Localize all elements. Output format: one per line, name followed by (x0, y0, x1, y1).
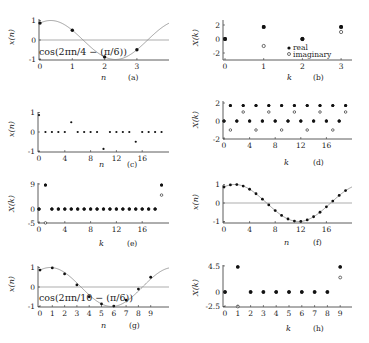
sample-point (77, 131, 79, 133)
sample-point (154, 131, 156, 133)
real-point (262, 290, 265, 293)
x-tick-label: 12 (296, 225, 306, 234)
sample-point (141, 131, 143, 133)
panel-caption: (c) (127, 160, 137, 169)
sample-point (280, 214, 283, 217)
real-point (287, 290, 290, 293)
sample-point (38, 114, 40, 116)
x-tick-label: 4 (274, 309, 279, 318)
real-point (121, 208, 124, 211)
y-tick-label: -1 (213, 217, 220, 226)
real-point (249, 290, 252, 293)
y-tick-label: 1 (31, 16, 36, 25)
y-tick-label: 0 (30, 205, 35, 214)
real-point (301, 37, 305, 41)
x-tick-label: 9 (338, 309, 343, 318)
y-axis-label: X(k) (191, 29, 200, 47)
x-axis-label: n (101, 321, 106, 330)
x-tick-label: 8 (88, 225, 93, 234)
y-axis-label: x(n) (7, 29, 16, 45)
real-point (57, 208, 60, 211)
real-point (102, 208, 105, 211)
sample-point (287, 218, 290, 221)
x-tick-label: 7 (312, 309, 317, 318)
panel-caption: (d) (313, 158, 324, 167)
imaginary-point (344, 111, 347, 114)
y-tick-label: 2 (215, 99, 220, 108)
x-tick-label: 0 (37, 154, 42, 163)
sample-point (248, 188, 251, 191)
sample-point (51, 267, 54, 270)
imaginary-point (160, 194, 163, 197)
y-tick-label: 0 (30, 128, 35, 137)
real-point (50, 208, 53, 211)
sample-point (102, 148, 104, 150)
y-tick-label: 9 (30, 180, 35, 189)
real-point (319, 104, 322, 107)
x-tick-label: 0 (222, 141, 227, 150)
sample-point (160, 131, 162, 133)
sample-point (261, 198, 264, 201)
panel-caption: (b) (313, 73, 324, 82)
x-tick-label: 1 (50, 309, 55, 318)
panel-g-time-signal: 0123456789 -101 cos(2πn/10 − (π/6)) n x(… (7, 263, 169, 330)
x-tick-label: 2 (300, 62, 305, 71)
imaginary-point (280, 129, 283, 132)
x-tick-label: 16 (322, 141, 332, 150)
sample-point (70, 121, 72, 123)
dft-points (38, 183, 164, 224)
real-point (229, 104, 232, 107)
y-axis-label: x(n) (7, 276, 16, 292)
real-point (267, 104, 270, 107)
sample-point (135, 141, 137, 143)
panel-b-dft: 0123 -202 real imaginary k X(k) (b) (191, 20, 352, 82)
x-tick-label: 6 (299, 309, 304, 318)
real-point (235, 120, 238, 123)
legend: real imaginary (287, 43, 332, 59)
x-tick-label: 3 (339, 62, 344, 71)
real-point (306, 104, 309, 107)
formula-annotation: cos(2πn/10 − (π/6)) (39, 292, 133, 303)
sample-point (255, 192, 258, 195)
sample-point (242, 185, 245, 188)
sample-point (109, 131, 111, 133)
y-axis-label: X(k) (191, 111, 200, 129)
imaginary-point (339, 276, 342, 279)
y-tick-label: -5 (28, 219, 36, 228)
sample-point (331, 200, 334, 203)
sample-point (344, 189, 347, 192)
real-point (89, 208, 92, 211)
x-tick-label: 0 (38, 62, 43, 71)
real-point (326, 290, 329, 293)
panel-h-dft: 0123456789 -2.504.5 k X(k) (h) (191, 262, 352, 333)
sample-point (274, 209, 277, 212)
sample-point (90, 131, 92, 133)
y-tick-label: 0 (31, 36, 36, 45)
real-point (242, 104, 245, 107)
x-tick-label: 5 (287, 309, 292, 318)
sample-point (64, 131, 66, 133)
y-tick-label: 0 (30, 283, 35, 292)
y-axis-label: X(k) (7, 195, 16, 213)
real-point (160, 183, 163, 186)
sample-point (325, 205, 328, 208)
sample-point (148, 131, 150, 133)
imaginary-point (339, 30, 342, 33)
real-point (44, 183, 47, 186)
sample-point (57, 131, 59, 133)
sample-point (51, 131, 53, 133)
real-point (274, 120, 277, 123)
imaginary-point (242, 111, 245, 114)
real-point (287, 120, 290, 123)
x-tick-label: 0 (37, 225, 42, 234)
imaginary-point (229, 129, 232, 132)
sample-point (338, 194, 341, 197)
real-point (63, 208, 66, 211)
legend-imaginary-marker (288, 53, 291, 56)
sample-point (63, 273, 66, 276)
y-tick-label: 1 (30, 108, 35, 117)
sample-point (267, 204, 270, 207)
y-tick-label: -1 (28, 147, 35, 156)
sample-point (83, 131, 85, 133)
real-point (261, 120, 264, 123)
